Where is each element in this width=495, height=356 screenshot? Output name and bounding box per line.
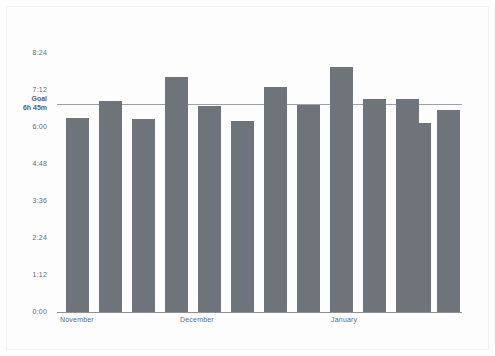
- y-tick-label-1-12: 1:12: [0, 271, 47, 279]
- y-tick-label-0-00: 0:00: [0, 308, 47, 316]
- y-tick-label-8-24: 8:24: [0, 49, 47, 57]
- bar-chart-plot-area: 8:24 7:12 6:00 4:48 3:36 2:24 1:12 0:00 …: [0, 0, 495, 356]
- x-tick-label-december: December: [180, 316, 214, 323]
- bar-nov-w4[interactable]: [165, 77, 188, 312]
- goal-annotation: Goal 6h 45m: [0, 95, 47, 112]
- x-tick-label-november: November: [60, 316, 94, 323]
- bar-jan-w3[interactable]: [408, 123, 431, 312]
- bar-nov-w3[interactable]: [132, 119, 155, 312]
- bar-dec-w3[interactable]: [264, 87, 287, 312]
- x-tick-label-january: January: [331, 316, 357, 323]
- bar-jan-w4[interactable]: [437, 110, 460, 312]
- y-tick-label-7-12: 7:12: [0, 86, 47, 94]
- y-tick-label-3-36: 3:36: [0, 197, 47, 205]
- bar-dec-w1[interactable]: [198, 106, 221, 312]
- y-tick-label-6-00: 6:00: [0, 123, 47, 131]
- y-tick-label-4-48: 4:48: [0, 160, 47, 168]
- y-tick-label-2-24: 2:24: [0, 234, 47, 242]
- x-axis-line: [57, 312, 462, 313]
- bar-nov-w1[interactable]: [66, 118, 89, 312]
- bar-dec-w5[interactable]: [330, 67, 353, 312]
- bar-jan-w1[interactable]: [363, 99, 386, 312]
- goal-label: Goal: [0, 95, 47, 104]
- bar-nov-w2[interactable]: [99, 101, 122, 312]
- goal-value-label: 6h 45m: [0, 104, 47, 113]
- bar-dec-w2[interactable]: [231, 121, 254, 312]
- chart-card: 8:24 7:12 6:00 4:48 3:36 2:24 1:12 0:00 …: [0, 0, 495, 356]
- bar-dec-w4[interactable]: [297, 105, 320, 312]
